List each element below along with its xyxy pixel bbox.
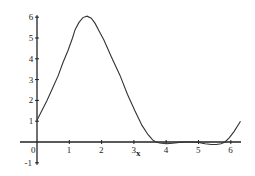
x-tick-label: 0 <box>31 145 36 155</box>
y-tick-label: 4 <box>29 54 34 64</box>
y-tick-label: -1 <box>25 158 32 168</box>
x-tick-label: 5 <box>196 145 201 155</box>
line-chart: 0123456-1123456 x <box>0 0 255 176</box>
x-axis-label: x <box>136 148 141 158</box>
y-tick-label: 2 <box>29 95 34 105</box>
y-tick-label: 6 <box>29 12 34 22</box>
data-curve <box>37 16 241 144</box>
y-tick-label: 1 <box>29 116 34 126</box>
x-tick-label: 1 <box>67 145 72 155</box>
axes <box>20 15 241 165</box>
axis-ticks <box>35 17 231 163</box>
tick-labels: 0123456-1123456 <box>25 12 234 168</box>
y-tick-label: 3 <box>29 75 34 85</box>
x-tick-label: 2 <box>99 145 104 155</box>
y-tick-label: 5 <box>29 33 34 43</box>
x-tick-label: 6 <box>228 145 233 155</box>
x-tick-label: 4 <box>164 145 169 155</box>
